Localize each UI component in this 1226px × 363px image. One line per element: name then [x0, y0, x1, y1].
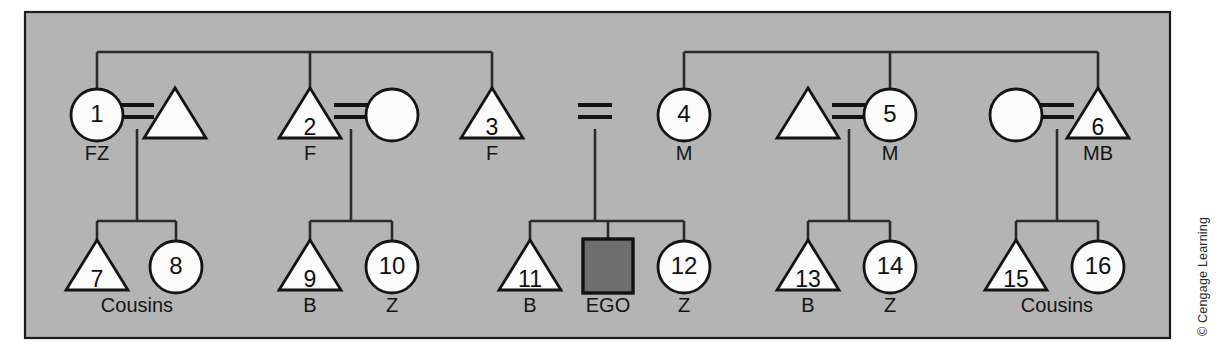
kin-number-3: 3	[486, 114, 499, 140]
kin-label-cousins-1: Cousins	[1021, 294, 1093, 316]
copyright-credit: © Cengage Learning	[1196, 217, 1210, 336]
circle-female-symbol[interactable]	[990, 89, 1042, 141]
kin-number-7: 7	[91, 266, 104, 292]
kin-number-14: 14	[877, 252, 904, 279]
kin-label-top-f-2: F	[486, 142, 498, 164]
kin-number-11: 11	[518, 266, 542, 292]
kin-symbol-p2[interactable]	[366, 89, 418, 141]
kin-label-top-mb-5: MB	[1083, 142, 1113, 164]
kin-label-bottom-z-1: Z	[386, 294, 398, 316]
kin-symbol-1[interactable]: 1	[71, 89, 123, 141]
kin-label-top-m-4: M	[882, 142, 899, 164]
kin-number-6: 6	[1092, 114, 1105, 140]
kin-label-bottom-ego-3: EGO	[586, 294, 630, 316]
kin-symbol-16[interactable]: 16	[1072, 241, 1124, 293]
kin-label-bottom-z-6: Z	[884, 294, 896, 316]
kin-symbol-14[interactable]: 14	[864, 241, 916, 293]
kin-label-cousins-0: Cousins	[101, 294, 173, 316]
kin-number-5: 5	[883, 100, 896, 127]
kin-number-10: 10	[379, 252, 406, 279]
kin-number-2: 2	[304, 114, 317, 140]
kin-label-bottom-b-2: B	[523, 294, 536, 316]
kin-symbol-5[interactable]: 5	[864, 89, 916, 141]
kin-symbol-8[interactable]: 8	[150, 241, 202, 293]
kin-number-1: 1	[90, 100, 103, 127]
kin-label-bottom-b-0: B	[303, 294, 316, 316]
kinship-figure: 12345678910111213141516 FZFFMMMBBZBEGOZB…	[0, 0, 1226, 363]
kin-label-bottom-b-5: B	[801, 294, 814, 316]
kin-symbol-p4[interactable]	[990, 89, 1042, 141]
kin-symbol-12[interactable]: 12	[658, 241, 710, 293]
kin-label-top-fz-0: FZ	[85, 142, 109, 164]
kin-number-4: 4	[677, 100, 690, 127]
kin-label-top-f-1: F	[304, 142, 316, 164]
kin-symbol-4[interactable]: 4	[658, 89, 710, 141]
kin-label-top-m-3: M	[676, 142, 693, 164]
kin-number-12: 12	[671, 252, 698, 279]
circle-female-symbol[interactable]	[366, 89, 418, 141]
kin-number-16: 16	[1085, 252, 1112, 279]
square-ego-symbol[interactable]	[583, 239, 633, 293]
kin-number-13: 13	[795, 266, 821, 292]
kin-label-bottom-z-4: Z	[678, 294, 690, 316]
kin-number-15: 15	[1003, 266, 1029, 292]
kin-symbol-10[interactable]: 10	[366, 241, 418, 293]
kin-number-8: 8	[169, 252, 182, 279]
kin-symbol-ego[interactable]	[583, 239, 633, 293]
kinship-diagram-canvas: 12345678910111213141516 FZFFMMMBBZBEGOZB…	[0, 0, 1226, 363]
kin-number-9: 9	[304, 266, 317, 292]
